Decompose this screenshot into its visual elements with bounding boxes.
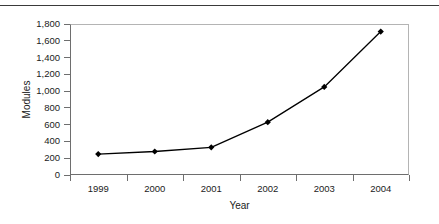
x-axis-tick-label: 2000 [125, 184, 185, 194]
y-axis-tick-label: 1,400 [8, 53, 60, 63]
y-axis-tick [64, 57, 70, 58]
y-axis-tick [64, 107, 70, 108]
y-axis-tick-label: 1,800 [8, 19, 60, 29]
y-axis-tick-label: 400 [8, 136, 60, 146]
y-axis-tick [64, 24, 70, 25]
y-axis-tick-label: 600 [8, 120, 60, 130]
x-axis-tick [70, 175, 71, 181]
x-axis-tick [183, 175, 184, 181]
x-axis-tick-label: 2003 [294, 184, 354, 194]
y-axis-tick [64, 124, 70, 125]
y-axis-tick-label: 1,000 [8, 86, 60, 96]
x-axis-tick-label: 1999 [68, 184, 128, 194]
y-axis-tick [64, 91, 70, 92]
y-axis-tick-label: 1,600 [8, 36, 60, 46]
y-axis-tick-label: 1,200 [8, 69, 60, 79]
x-axis-tick [296, 175, 297, 181]
y-axis-tick-label: 800 [8, 103, 60, 113]
x-axis-tick-label: 2004 [351, 184, 411, 194]
y-axis-tick [64, 158, 70, 159]
x-axis-tick [353, 175, 354, 181]
x-axis-title: Year [70, 201, 409, 211]
x-axis-tick [240, 175, 241, 181]
y-axis-tick [64, 141, 70, 142]
x-axis-tick [127, 175, 128, 181]
x-axis-tick [409, 175, 410, 181]
x-axis-tick-label: 2002 [238, 184, 298, 194]
y-axis-title: Modules [20, 24, 34, 175]
plot-area-frame [70, 24, 409, 175]
y-axis-tick [64, 74, 70, 75]
x-axis-tick-label: 2001 [181, 184, 241, 194]
line-chart-figure: 02004006008001,0001,2001,4001,6001,800 M… [0, 0, 439, 224]
y-axis-tick-label: 0 [8, 170, 60, 180]
y-axis-tick-label: 200 [8, 153, 60, 163]
y-axis-tick [64, 40, 70, 41]
